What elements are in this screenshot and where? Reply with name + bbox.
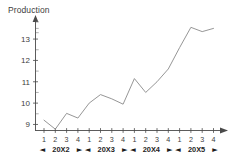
- year-label: 20X3: [98, 145, 115, 154]
- x-tick-label: 1: [87, 135, 91, 144]
- y-tick-label: 12: [21, 56, 30, 65]
- production-series-line: [44, 27, 214, 129]
- x-axis-arrowhead: [220, 128, 228, 134]
- x-tick-label: 4: [166, 135, 170, 144]
- x-axis: [36, 128, 229, 134]
- year-left-arrow: ◄: [40, 145, 46, 154]
- x-tick-label: 3: [200, 135, 204, 144]
- chart-plot-area: 910111213 1234123412341234 ◄20X2►◄20X3►◄…: [0, 0, 245, 162]
- year-right-arrow: ►: [122, 145, 128, 154]
- year-left-arrow: ◄: [175, 145, 181, 154]
- x-tick-label: 4: [121, 135, 125, 144]
- year-right-arrow: ►: [167, 145, 173, 154]
- x-tick-label: 1: [178, 135, 182, 144]
- y-axis-arrowhead: [33, 15, 39, 22]
- y-tick-label: 9: [26, 120, 31, 129]
- year-bracket-group: ◄20X2►◄20X3►◄20X4►◄20X5►: [40, 145, 219, 154]
- y-tick-label: 11: [22, 78, 31, 87]
- year-left-arrow: ◄: [85, 145, 91, 154]
- x-tick-label: 3: [155, 135, 159, 144]
- x-tick-label-group: 1234123412341234: [42, 135, 216, 144]
- x-tick-label: 1: [132, 135, 136, 144]
- year-label: 20X5: [188, 145, 205, 154]
- x-tick-label: 2: [144, 135, 148, 144]
- x-tick-label: 1: [42, 135, 46, 144]
- year-left-arrow: ◄: [130, 145, 136, 154]
- year-right-arrow: ►: [77, 145, 83, 154]
- x-tick-label: 2: [189, 135, 193, 144]
- x-tick-label: 3: [65, 135, 69, 144]
- x-tick-label: 2: [53, 135, 57, 144]
- year-label: 20X4: [143, 145, 161, 154]
- year-right-arrow: ►: [212, 145, 218, 154]
- year-label: 20X2: [52, 145, 69, 154]
- x-tick-label: 3: [110, 135, 114, 144]
- x-tick-label: 4: [76, 135, 80, 144]
- x-tick-label: 4: [212, 135, 216, 144]
- x-tick-label: 2: [99, 135, 103, 144]
- production-line-chart: Production 910111213 1234123412341234 ◄2…: [0, 0, 245, 162]
- y-tick-label: 10: [21, 99, 30, 108]
- y-tick-group: 910111213: [21, 22, 39, 129]
- y-tick-label: 13: [21, 35, 30, 44]
